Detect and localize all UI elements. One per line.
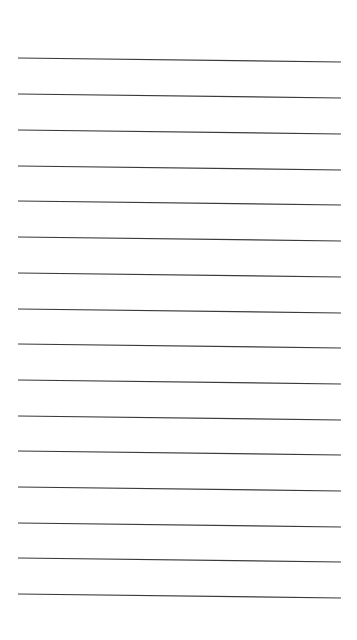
ruled-line [18, 201, 341, 205]
ruled-line [18, 166, 341, 170]
ruled-line [18, 94, 341, 98]
ruled-line [18, 523, 341, 527]
ruled-line [18, 594, 341, 598]
ruled-line [18, 58, 341, 62]
ruled-line [18, 487, 341, 491]
ruled-line [18, 558, 341, 562]
ruled-line [18, 451, 341, 455]
lined-page [0, 0, 357, 640]
ruled-line [18, 273, 341, 277]
ruled-line [18, 416, 341, 420]
ruled-line [18, 309, 341, 313]
ruled-line [18, 344, 341, 348]
ruled-lines [0, 0, 357, 640]
ruled-line [18, 380, 341, 384]
ruled-line [18, 130, 341, 134]
ruled-line [18, 237, 341, 241]
